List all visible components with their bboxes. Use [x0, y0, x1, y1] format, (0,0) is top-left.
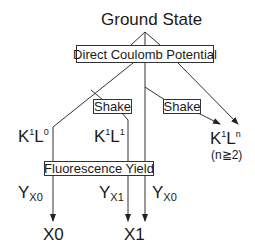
direct-coulomb-potential-box: Direct Coulomb Potential	[76, 45, 214, 63]
state-k1l1: K1L1	[94, 128, 125, 145]
shake-box-left: Shake	[93, 99, 132, 114]
state-k1l0-l: L	[34, 127, 43, 146]
state-k1ln-l: L	[226, 129, 235, 148]
diagram-connectors	[0, 0, 255, 247]
state-k1l1-l: L	[110, 127, 119, 146]
shake-box-right: Shake	[163, 99, 201, 114]
state-k1ln: K1Ln	[210, 130, 241, 147]
yield-mid-sub: X1	[110, 191, 123, 203]
state-k1l1-k: K	[94, 127, 105, 146]
ground-state-label: Ground State	[101, 11, 202, 28]
state-k1l0: K1L0	[18, 128, 49, 145]
yield-left-sub: X0	[29, 191, 42, 203]
fluorescence-yield-box: Fluorescence Yield	[44, 161, 154, 176]
state-k1l1-l-sup: 1	[120, 127, 125, 137]
yield-label-mid: YX1	[99, 184, 124, 203]
yield-mid-base: Y	[99, 183, 110, 202]
yield-label-left: YX0	[18, 184, 43, 203]
yield-right-sub: X0	[163, 191, 176, 203]
yield-left-base: Y	[18, 183, 29, 202]
yield-right-base: Y	[152, 183, 163, 202]
state-k1ln-k: K	[210, 129, 221, 148]
state-k1l0-k: K	[18, 127, 29, 146]
output-x0: X0	[43, 226, 64, 243]
state-k1ln-condition: (n≧2)	[211, 149, 242, 161]
yield-label-right: YX0	[152, 184, 177, 203]
state-k1l0-l-sup: 0	[44, 127, 49, 137]
output-x1: X1	[124, 226, 145, 243]
state-k1ln-l-sup: n	[236, 129, 241, 139]
